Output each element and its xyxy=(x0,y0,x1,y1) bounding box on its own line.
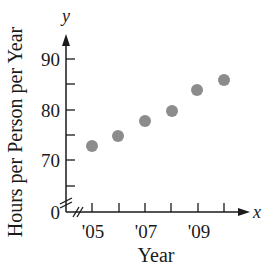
data-point xyxy=(166,105,178,117)
x-tick-label-09: '09 xyxy=(188,221,210,242)
y-axis-variable: y xyxy=(60,6,70,26)
data-point xyxy=(139,115,151,127)
data-points xyxy=(86,74,230,152)
y-tick-label-90: 90 xyxy=(41,49,60,70)
axis-break-icon xyxy=(60,198,83,217)
data-point xyxy=(86,140,98,152)
data-point xyxy=(112,130,124,142)
x-ticks xyxy=(92,203,224,212)
data-point xyxy=(218,74,230,86)
data-point xyxy=(191,84,203,96)
x-tick-label-07: '07 xyxy=(135,221,157,242)
x-axis-arrow-icon xyxy=(238,208,250,216)
y-axis-arrow-icon xyxy=(62,34,70,46)
x-tick-label-05: '05 xyxy=(82,221,104,242)
x-axis-variable: x xyxy=(252,202,261,222)
y-tick-label-70: 70 xyxy=(41,150,60,171)
y-tick-label-80: 80 xyxy=(41,100,60,121)
x-axis-title: Year xyxy=(138,244,175,266)
y-ticks xyxy=(66,59,75,186)
scatter-chart: 90 80 70 0 '05 '07 '09 y x Year Hours pe… xyxy=(0,0,267,266)
y-tick-label-0: 0 xyxy=(51,202,61,223)
y-axis-title: Hours per Person per Year xyxy=(4,26,27,237)
